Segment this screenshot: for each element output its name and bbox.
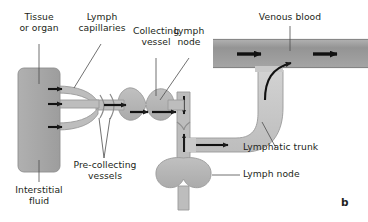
leader-precollecting-b bbox=[99, 118, 104, 158]
lymph-node-upper bbox=[118, 88, 174, 120]
leader-capillaries bbox=[74, 44, 101, 88]
label-lymphatic-trunk: Lymphatic trunk bbox=[243, 142, 353, 153]
lymph-node-upper-body bbox=[118, 88, 174, 120]
label-interstitial-fluid: Interstitial fluid bbox=[6, 185, 72, 206]
leader-precollecting-a bbox=[104, 118, 110, 158]
label-lymph-node-top: Lymph node bbox=[163, 26, 215, 47]
lymph-capillary-middle bbox=[57, 100, 99, 108]
panel-letter: b bbox=[341, 196, 349, 208]
lymph-capillary-bottom bbox=[57, 108, 98, 130]
efferent-vessel-lower bbox=[178, 186, 189, 210]
lymph-node-lower bbox=[156, 158, 211, 188]
label-tissue-or-organ: Tissue or organ bbox=[7, 12, 71, 33]
trunk-crossing-overlay bbox=[186, 138, 196, 152]
lymphatic-system-diagram: Tissue or organ Lymph capillaries Collec… bbox=[0, 0, 368, 222]
efferent-vessel-upper bbox=[168, 100, 184, 110]
lymph-capillaries bbox=[57, 86, 99, 130]
label-venous-blood: Venous blood bbox=[248, 12, 332, 23]
label-pre-collecting-vessels: Pre-collecting vessels bbox=[57, 160, 153, 181]
label-lymph-node-right: Lymph node bbox=[243, 169, 335, 180]
